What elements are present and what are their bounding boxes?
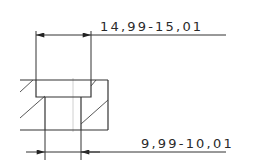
section-hatching [20,80,108,124]
technical-drawing: 14,99-15,01 9,99-10,01 [0,0,260,167]
part-outline [20,80,108,130]
counterbore-diameter-label: 14,99-15,01 [100,20,203,33]
dimension-counterbore [36,31,226,80]
hole-diameter-label: 9,99-10,01 [141,137,234,150]
